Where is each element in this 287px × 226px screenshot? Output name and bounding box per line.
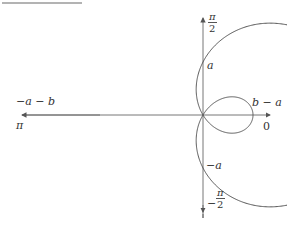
label-minus-a: −a	[206, 160, 222, 171]
label-minus-pi-over-2: π 2	[216, 188, 225, 210]
label-b-minus-a: b − a	[252, 97, 282, 108]
label-a: a	[207, 60, 214, 71]
label-zero: 0	[263, 121, 270, 132]
label-minus-sign: −	[207, 197, 216, 210]
label-minus-a-minus-b: −a − b	[16, 96, 55, 107]
label-pi: π	[16, 120, 23, 131]
label-pi-over-2: π 2	[208, 12, 217, 34]
diagram-canvas	[0, 0, 287, 226]
limacon-diagram: π 2 − π 2 a −a −a − b π b − a 0	[0, 0, 287, 226]
